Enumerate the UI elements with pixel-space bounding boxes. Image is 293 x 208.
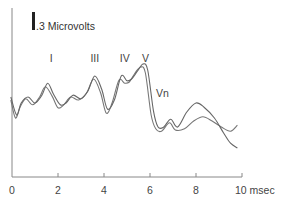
traces (11, 64, 238, 148)
x-axis-ticks (58, 173, 242, 177)
scale-bar (32, 12, 35, 30)
x-tick-label: 8 (193, 184, 199, 196)
trace-line (11, 64, 238, 148)
peak-label-i: I (50, 52, 53, 64)
peak-label-vn: Vn (156, 87, 169, 99)
x-tick-label: 10 msec (235, 184, 275, 196)
scale-bar-label: .3 Microvolts (36, 20, 95, 32)
x-tick-label: 0 (9, 184, 15, 196)
peak-label-v: V (142, 52, 149, 64)
peak-label-iv: IV (120, 52, 130, 64)
x-tick-label: 2 (55, 184, 61, 196)
peak-label-iii: III (90, 52, 99, 64)
x-tick-label: 6 (147, 184, 153, 196)
x-tick-label: 4 (101, 184, 107, 196)
